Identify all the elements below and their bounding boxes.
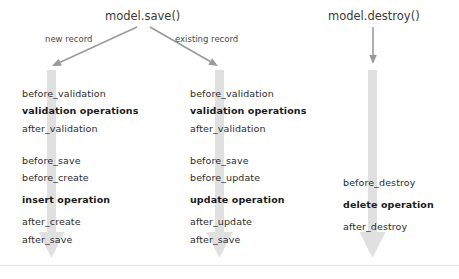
connector-destroy-to-destroy [369,27,377,64]
entrypoint-model-destroy-label: model.destroy() [328,10,420,23]
callback-label: after_create [22,216,81,227]
operation-label: update operation [190,194,285,205]
callback-label: before_create [22,172,89,183]
callback-label: before_validation [190,88,274,99]
callback-label: after_save [190,234,240,245]
callback-label: after_destroy [343,221,407,232]
operation-label: validation operations [190,105,306,116]
callbacks-diagram: model.save() model.destroy() new record … [0,0,459,279]
operation-label: insert operation [22,194,110,205]
branch-label-existing-record: existing record [175,34,238,44]
callback-label: after_validation [22,123,98,134]
callback-label: after_update [190,216,252,227]
operation-label: delete operation [343,199,434,210]
bottom-divider [0,265,459,266]
callback-label: before_update [190,172,260,183]
operation-label: validation operations [22,105,138,116]
callback-label: after_save [22,234,72,245]
connector-head-destroy-to-destroy [369,55,377,64]
callback-label: before_save [190,155,249,166]
callback-label: before_validation [22,88,106,99]
entrypoint-model-save-label: model.save() [105,10,180,23]
branch-label-new-record: new record [45,34,92,44]
connector-save-to-create [52,27,137,66]
callback-label: before_save [22,155,81,166]
connector-shaft-save-to-update [150,27,210,62]
connector-save-to-update [150,27,218,66]
callback-label: before_destroy [343,177,415,188]
callback-label: after_validation [190,123,266,134]
connector-shaft-save-to-create [60,27,137,62]
